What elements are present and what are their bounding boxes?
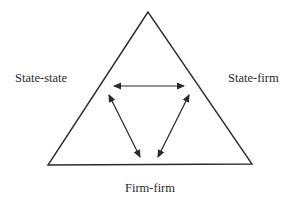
arrow-state-firm-to-firm-firm: [158, 95, 189, 157]
arrow-state-state-to-firm-firm: [109, 95, 140, 157]
label-state-firm: State-firm: [228, 72, 279, 85]
diagram-canvas: State-state State-firm Firm-firm: [0, 0, 294, 201]
outer-triangle: [48, 12, 252, 165]
triangle-diagram: [0, 0, 294, 201]
label-state-state: State-state: [15, 72, 67, 85]
label-firm-firm: Firm-firm: [125, 182, 175, 195]
